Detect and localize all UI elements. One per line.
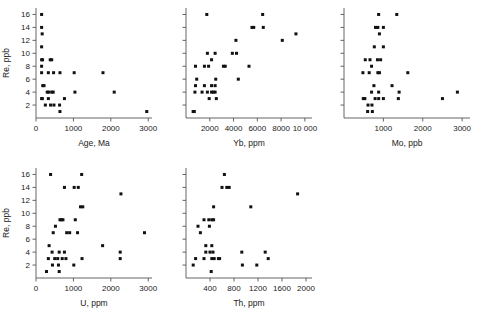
- data-point: [40, 65, 43, 68]
- data-point: [61, 218, 64, 221]
- data-point: [214, 78, 217, 81]
- data-point: [235, 52, 238, 55]
- panel-u-x-tick-label: 1000: [65, 284, 83, 293]
- data-point: [58, 110, 61, 113]
- data-point: [40, 26, 43, 29]
- data-point: [252, 26, 255, 29]
- data-point: [63, 251, 66, 254]
- data-point: [50, 58, 53, 61]
- data-point: [40, 13, 43, 16]
- data-point: [262, 26, 265, 29]
- panel-u-x-axis-title: U, ppm: [80, 298, 107, 308]
- data-point: [296, 192, 299, 195]
- data-point: [199, 231, 202, 234]
- panel-th-x-tick-label: 400: [203, 284, 217, 293]
- data-point: [377, 13, 380, 16]
- data-point: [374, 97, 377, 100]
- panel-age-y-tick-label: 2: [26, 101, 31, 110]
- data-point: [194, 257, 197, 260]
- data-point: [221, 186, 224, 189]
- panel-mo-svg: 100020003000Mo, ppb: [318, 0, 476, 160]
- panel-age-x-tick-label: 0: [34, 124, 39, 133]
- data-point: [47, 257, 50, 260]
- panel-u-y-tick-label: 8: [26, 222, 31, 231]
- data-point: [366, 110, 369, 113]
- data-point: [53, 257, 56, 260]
- data-point: [51, 264, 54, 267]
- data-point: [68, 231, 71, 234]
- data-point: [215, 97, 218, 100]
- data-point: [74, 218, 77, 221]
- data-point: [361, 71, 364, 74]
- data-point: [45, 270, 48, 273]
- panel-mo-x-axis-title: Mo, ppb: [392, 138, 423, 148]
- data-point: [80, 173, 83, 176]
- data-point: [73, 186, 76, 189]
- data-point: [371, 110, 374, 113]
- panel-th: 400800120016002000Th, ppm: [160, 160, 318, 320]
- data-point: [240, 251, 243, 254]
- panel-age-y-tick-label: 8: [26, 62, 31, 71]
- data-point: [378, 71, 381, 74]
- data-point: [54, 225, 57, 228]
- data-point: [441, 97, 444, 100]
- data-point: [113, 91, 116, 94]
- data-point: [205, 13, 208, 16]
- data-point: [203, 257, 206, 260]
- data-point: [210, 84, 213, 87]
- data-point: [52, 71, 55, 74]
- data-point: [197, 225, 200, 228]
- data-point: [261, 13, 264, 16]
- data-point: [41, 32, 44, 35]
- data-point: [224, 65, 227, 68]
- data-point: [49, 104, 52, 107]
- data-point: [76, 231, 79, 234]
- panel-age: 0100020003000246810121416Age, MaRe, ppb: [0, 0, 158, 160]
- panel-age-x-tick-label: 3000: [139, 124, 157, 133]
- data-point: [63, 186, 66, 189]
- data-point: [209, 251, 212, 254]
- data-point: [101, 71, 104, 74]
- panel-yb-x-tick-label: 4000: [225, 124, 243, 133]
- data-point: [194, 65, 197, 68]
- data-point: [373, 45, 376, 48]
- data-point: [40, 45, 43, 48]
- data-point: [264, 251, 267, 254]
- data-point: [231, 52, 234, 55]
- panel-u-points: [45, 173, 146, 273]
- data-point: [370, 91, 373, 94]
- panel-age-x-axis-title: Age, Ma: [78, 138, 110, 148]
- data-point: [395, 13, 398, 16]
- data-point: [58, 270, 61, 273]
- data-point: [192, 264, 195, 267]
- data-point: [56, 257, 59, 260]
- data-point: [234, 39, 237, 42]
- panel-yb-points: [192, 13, 298, 113]
- data-point: [44, 104, 47, 107]
- data-point: [382, 45, 385, 48]
- data-point: [382, 97, 385, 100]
- panel-age-svg: 0100020003000246810121416Age, MaRe, ppb: [0, 0, 158, 160]
- data-point: [248, 65, 251, 68]
- data-point: [72, 264, 75, 267]
- data-point: [367, 104, 370, 107]
- data-point: [212, 251, 215, 254]
- panel-age-y-tick-label: 6: [26, 75, 31, 84]
- data-point: [281, 39, 284, 42]
- panel-u-x-tick-label: 0: [34, 284, 39, 293]
- data-point: [456, 91, 459, 94]
- data-point: [208, 97, 211, 100]
- data-point: [214, 52, 217, 55]
- panel-th-points: [192, 173, 299, 273]
- panel-u-svg: 0100020003000246810121416U, ppmRe, ppb: [0, 160, 158, 320]
- panel-yb-svg: 200040006000800010 000Yb, ppm: [160, 0, 318, 160]
- data-point: [214, 91, 217, 94]
- data-point: [203, 65, 206, 68]
- panel-u-x-tick-label: 2000: [102, 284, 120, 293]
- data-point: [379, 58, 382, 61]
- data-point: [195, 78, 198, 81]
- data-point: [378, 32, 381, 35]
- data-point: [52, 231, 55, 234]
- data-point: [214, 84, 217, 87]
- data-point: [119, 192, 122, 195]
